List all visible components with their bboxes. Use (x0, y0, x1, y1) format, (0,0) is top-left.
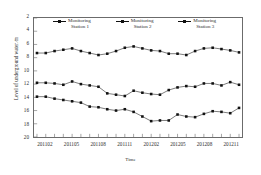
data-point-marker (141, 115, 144, 118)
legend-label-station-3: Monitoring Station 3 (193, 18, 216, 30)
data-point-marker (53, 97, 56, 100)
data-point-marker (71, 80, 74, 83)
chart-figure: Level of underground water ∕m 2468101214… (0, 0, 261, 175)
series-1 (36, 45, 241, 56)
data-point-marker (185, 85, 188, 88)
data-point-marker (97, 106, 100, 109)
x-axis-tick-labels: 2011022011052011082011112012022012052012… (33, 141, 243, 151)
y-axis-tick-label: 20 (24, 135, 29, 140)
data-point-marker (80, 50, 83, 53)
y-axis-tick-label: 16 (24, 109, 29, 114)
data-point-marker (141, 91, 144, 94)
y-axis-tick-label: 2 (26, 14, 29, 19)
data-point-marker (211, 110, 214, 113)
data-point-marker (80, 83, 83, 86)
series-2 (36, 80, 241, 97)
data-point-marker (159, 93, 162, 96)
data-point-marker (176, 86, 179, 89)
y-axis-tick-label: 14 (24, 95, 29, 100)
y-axis-tick-label: 4 (26, 28, 29, 33)
data-point-marker (203, 47, 206, 50)
data-point-marker (115, 93, 118, 96)
data-point-marker (185, 54, 188, 57)
x-axis-tick-label: 201105 (64, 141, 79, 147)
data-point-marker (238, 51, 241, 54)
data-point-marker (115, 109, 118, 112)
legend-item-station-2: Monitoring Station 2 (116, 18, 171, 36)
data-point-marker (150, 49, 153, 52)
data-point-marker (106, 108, 109, 111)
data-point-marker (167, 119, 170, 122)
data-point-marker (132, 89, 135, 92)
data-point-marker (124, 95, 127, 98)
data-point-marker (211, 82, 214, 85)
y-axis-tick-label: 10 (24, 68, 29, 73)
data-point-marker (159, 50, 162, 53)
chart-legend: Monitoring Station 1 Monitoring Station … (53, 18, 233, 36)
data-point-marker (132, 111, 135, 114)
data-point-marker (44, 82, 47, 85)
data-point-marker (106, 52, 109, 55)
data-point-marker (62, 83, 65, 86)
legend-item-station-1: Monitoring Station 1 (53, 18, 108, 36)
data-point-marker (97, 85, 100, 88)
data-point-marker (238, 83, 241, 86)
data-point-marker (229, 112, 232, 115)
data-point-marker (44, 95, 47, 98)
data-point-marker (124, 46, 127, 49)
data-point-marker (53, 50, 56, 53)
y-axis-tick-label: 18 (24, 122, 29, 127)
y-axis-tick-labels: 2468101214161820 (0, 17, 31, 138)
data-point-marker (220, 84, 223, 87)
series-line (37, 97, 239, 121)
x-axis-tick-label: 201102 (37, 141, 52, 147)
x-axis-title: Time (0, 157, 261, 162)
data-point-marker (194, 50, 197, 53)
data-point-marker (62, 99, 65, 102)
legend-item-station-3: Monitoring Station 3 (178, 18, 233, 36)
data-point-marker (203, 82, 206, 85)
data-point-marker (141, 47, 144, 50)
data-point-marker (88, 105, 91, 108)
x-axis-tick-label: 201108 (90, 141, 105, 147)
data-point-marker (44, 52, 47, 55)
data-point-marker (106, 92, 109, 95)
data-point-marker (159, 119, 162, 122)
data-point-marker (211, 46, 214, 49)
legend-label-station-1: Monitoring Station 1 (68, 18, 91, 30)
data-point-marker (71, 100, 74, 103)
data-point-marker (36, 82, 39, 85)
data-point-marker (176, 52, 179, 55)
data-point-marker (229, 49, 232, 52)
data-point-marker (97, 54, 100, 57)
data-point-marker (36, 95, 39, 98)
legend-label-station-2: Monitoring Station 2 (131, 18, 154, 30)
x-axis-tick-label: 201111 (117, 141, 132, 147)
data-point-marker (150, 93, 153, 96)
legend-label-line2: Station 3 (193, 24, 216, 30)
data-point-marker (88, 52, 91, 55)
series-3 (36, 95, 241, 122)
data-point-marker (176, 113, 179, 116)
data-point-marker (36, 52, 39, 55)
data-point-marker (124, 108, 127, 111)
data-point-marker (167, 52, 170, 55)
legend-label-line2: Station 1 (68, 24, 91, 30)
series-line (37, 81, 239, 96)
y-axis-tick-label: 12 (24, 82, 29, 87)
y-axis-tick-label: 8 (26, 55, 29, 60)
data-point-marker (80, 101, 83, 104)
data-point-marker (238, 107, 241, 110)
legend-label-line1: Monitoring (131, 18, 154, 23)
y-axis-tick-label: 6 (26, 41, 29, 46)
x-axis-tick-label: 201208 (197, 141, 213, 147)
legend-line-marker-icon (116, 19, 129, 25)
data-point-marker (203, 113, 206, 116)
data-point-marker (62, 48, 65, 51)
data-point-marker (53, 82, 56, 85)
x-axis-tick-label: 201202 (144, 141, 160, 147)
legend-label-line2: Station 2 (131, 24, 154, 30)
data-point-marker (71, 47, 74, 50)
data-point-marker (194, 85, 197, 88)
legend-line-marker-icon (53, 19, 66, 25)
